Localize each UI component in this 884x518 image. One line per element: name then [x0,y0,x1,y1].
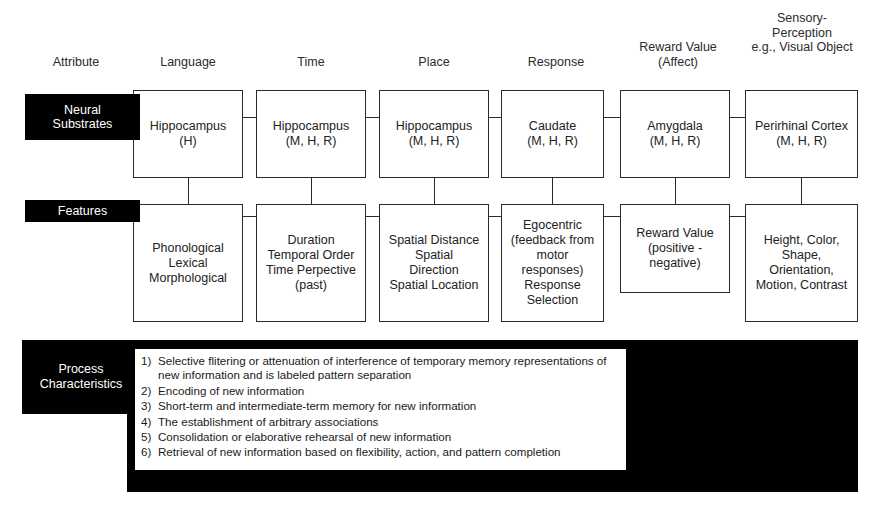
connector-feature-5-6 [730,216,745,217]
node-feature-reward[interactable]: Reward Value (positive - negative) [620,204,730,293]
column-header-time: Time [256,55,366,70]
connector-neural-3-4 [489,117,501,118]
process-characteristics-label: Process Characteristics [22,340,140,414]
connector-feature-2-3 [366,216,379,217]
list-item-number: 2) [141,384,158,398]
process-characteristics-list: 1) Selective flitering or attenuation of… [135,349,626,470]
node-neural-reward[interactable]: Amygdala (M, H, R) [620,90,730,178]
connector-vertical-place [434,178,435,204]
list-item-text: Short-term and intermediate-term memory … [158,399,620,413]
node-neural-place[interactable]: Hippocampus (M, H, R) [379,90,489,178]
connector-vertical-sensory [801,178,802,204]
node-feature-language[interactable]: Phonological Lexical Morphological [133,204,243,322]
row-label-neural-substrates: Neural Substrates [25,94,140,140]
node-feature-time[interactable]: Duration Temporal Order Time Perpective … [256,204,366,322]
connector-neural-5-6 [730,117,745,118]
node-neural-time[interactable]: Hippocampus (M, H, R) [256,90,366,178]
list-item-text: Selective flitering or attenuation of in… [158,354,620,383]
list-item-number: 5) [141,430,158,444]
row-label-features: Features [25,200,140,222]
connector-feature-1-2 [243,216,256,217]
column-header-place: Place [379,55,489,70]
node-neural-response[interactable]: Caudate (M, H, R) [501,90,604,178]
process-characteristics-block: Process Characteristics 1) Selective fli… [22,340,858,492]
process-notch-cutout [22,414,127,492]
list-item-number: 1) [141,354,158,383]
connector-vertical-reward [675,178,676,204]
node-feature-place[interactable]: Spatial Distance Spatial Direction Spati… [379,204,489,322]
list-item-number: 4) [141,415,158,429]
column-header-attribute: Attribute [28,55,124,70]
column-header-reward-value: Reward Value (Affect) [620,40,736,69]
list-item: 6) Retrieval of new information based on… [141,445,620,459]
node-feature-sensory[interactable]: Height, Color, Shape, Orientation, Motio… [745,204,858,322]
connector-vertical-response [552,178,553,204]
column-header-response: Response [501,55,611,70]
list-item-text: Encoding of new information [158,384,620,398]
list-item: 4) The establishment of arbitrary associ… [141,415,620,429]
node-feature-response[interactable]: Egocentric (feedback from motor response… [501,204,604,322]
connector-neural-2-3 [366,117,379,118]
list-item-text: Consolidation or elaborative rehearsal o… [158,430,620,444]
list-item-number: 6) [141,445,158,459]
connector-vertical-language [188,178,189,204]
connector-neural-1-2 [243,117,256,118]
diagram-canvas: Attribute Language Time Place Response R… [0,0,884,518]
connector-vertical-time [311,178,312,204]
list-item-text: Retrieval of new information based on fl… [158,445,620,459]
list-item: 1) Selective flitering or attenuation of… [141,354,620,383]
list-item: 2) Encoding of new information [141,384,620,398]
column-header-sensory-perception: Sensory- Perception e.g., Visual Object [742,11,862,55]
connector-feature-4-5 [604,216,620,217]
list-item-number: 3) [141,399,158,413]
connector-feature-3-4 [489,216,501,217]
list-item: 3) Short-term and intermediate-term memo… [141,399,620,413]
column-header-language: Language [133,55,243,70]
connector-neural-4-5 [604,117,620,118]
list-item-text: The establishment of arbitrary associati… [158,415,620,429]
list-item: 5) Consolidation or elaborative rehearsa… [141,430,620,444]
node-neural-language[interactable]: Hippocampus (H) [133,90,243,178]
node-neural-sensory[interactable]: Perirhinal Cortex (M, H, R) [745,90,858,178]
